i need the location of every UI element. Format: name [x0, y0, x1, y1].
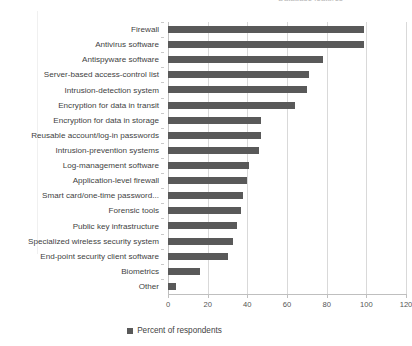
category-label: Application-level firewall	[73, 176, 159, 185]
category-tick	[161, 113, 164, 114]
legend-swatch-icon	[127, 328, 133, 334]
bar-row	[168, 158, 406, 173]
bar	[168, 132, 261, 139]
plot-area	[168, 22, 406, 294]
bar	[168, 102, 295, 109]
x-tick-20	[208, 294, 209, 298]
category-tick	[161, 52, 164, 53]
category-label: Smart card/one-time password...	[42, 191, 159, 200]
category-tick	[161, 234, 164, 235]
category-tick	[161, 173, 164, 174]
top-caption: Database features	[278, 0, 343, 3]
category-label: Log-management software	[63, 161, 159, 170]
bar	[168, 26, 364, 33]
legend-label: Percent of respondents	[137, 326, 222, 335]
category-label: Server-based access-control list	[44, 70, 159, 79]
category-label: Public key infrastructure	[73, 222, 159, 231]
category-label: Specialized wireless security system	[28, 237, 159, 246]
bar	[168, 177, 247, 184]
bar	[168, 162, 249, 169]
bar-row	[168, 143, 406, 158]
bar-row	[168, 113, 406, 128]
x-tick-100	[366, 294, 367, 298]
bar	[168, 147, 259, 154]
category-label: End-point security client software	[40, 252, 159, 261]
x-tick-80	[327, 294, 328, 298]
category-axis-labels: FirewallAntivirus softwareAntispyware so…	[0, 22, 164, 294]
bar-row	[168, 203, 406, 218]
bar	[168, 222, 237, 229]
bar	[168, 207, 241, 214]
category-tick	[161, 203, 164, 204]
bar-row	[168, 52, 406, 67]
x-tick-label-80: 80	[322, 300, 330, 309]
bar-row	[168, 218, 406, 233]
category-tick	[161, 218, 164, 219]
category-tick	[161, 279, 164, 280]
x-tick-label-40: 40	[243, 300, 251, 309]
x-tick-label-20: 20	[203, 300, 211, 309]
category-tick	[161, 22, 164, 23]
category-tick	[161, 82, 164, 83]
category-label: Encryption for data in transit	[58, 101, 159, 110]
bar-row	[168, 188, 406, 203]
bar	[168, 86, 307, 93]
bar	[168, 56, 323, 63]
bar-series	[168, 22, 406, 294]
category-label: Intrusion-prevention systems	[56, 146, 159, 155]
category-tick	[161, 128, 164, 129]
category-label: Forensic tools	[109, 206, 159, 215]
bar-row	[168, 264, 406, 279]
category-tick	[161, 264, 164, 265]
category-label: Firewall	[131, 25, 159, 34]
legend: Percent of respondents	[0, 326, 349, 335]
bar	[168, 253, 228, 260]
bar	[168, 71, 309, 78]
bar-row	[168, 173, 406, 188]
category-tick	[161, 188, 164, 189]
x-tick-label-60: 60	[283, 300, 291, 309]
bar-row	[168, 249, 406, 264]
bar-row	[168, 234, 406, 249]
bar-row	[168, 82, 406, 97]
x-tick-label-120: 120	[400, 300, 412, 309]
bar	[168, 192, 243, 199]
bar-row	[168, 279, 406, 294]
x-tick-label-0: 0	[166, 300, 170, 309]
category-label: Antispyware software	[82, 55, 159, 64]
x-tick-120	[406, 294, 407, 298]
category-label: Reusable account/log-in passwords	[31, 131, 159, 140]
category-tick	[161, 249, 164, 250]
category-label: Intrusion-detection system	[65, 86, 159, 95]
bar-row	[168, 37, 406, 52]
category-tick	[161, 67, 164, 68]
bar	[168, 238, 233, 245]
category-tick	[161, 143, 164, 144]
category-tick	[161, 37, 164, 38]
x-tick-label-100: 100	[360, 300, 373, 309]
bar-row	[168, 128, 406, 143]
category-label: Antivirus software	[95, 40, 159, 49]
bar	[168, 117, 261, 124]
bar	[168, 283, 176, 290]
bar-row	[168, 67, 406, 82]
bar-row	[168, 22, 406, 37]
bar	[168, 268, 200, 275]
bar	[168, 41, 364, 48]
gridline-120	[406, 22, 407, 294]
x-tick-0	[168, 294, 169, 298]
category-tick	[161, 98, 164, 99]
category-label: Biometrics	[121, 267, 159, 276]
x-tick-40	[247, 294, 248, 298]
category-label: Other	[139, 282, 159, 291]
category-label: Encryption for data in storage	[53, 116, 159, 125]
bar-row	[168, 98, 406, 113]
category-tick	[161, 158, 164, 159]
x-tick-60	[287, 294, 288, 298]
